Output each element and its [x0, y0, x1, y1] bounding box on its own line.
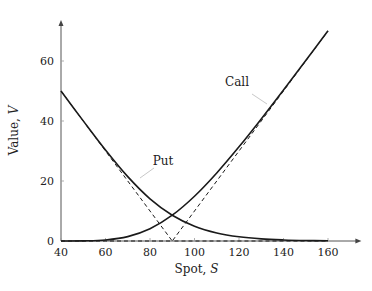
axes [59, 20, 362, 244]
x-tick-label: 160 [318, 246, 339, 259]
series-group [61, 31, 328, 241]
x-tick-label: 80 [143, 246, 157, 259]
y-tick-label: 20 [40, 175, 54, 188]
y-axis-label: Value, V [7, 104, 21, 156]
y-axis-label-var: V [7, 104, 21, 114]
call-label-pointer [252, 94, 267, 104]
option-value-chart: 406080100120140160 0204060 Call Put Spot… [0, 0, 372, 291]
call-payoff-line [61, 31, 328, 241]
x-tick-label: 120 [229, 246, 250, 259]
x-tick-label: 60 [99, 246, 113, 259]
annotations: Call Put [140, 75, 267, 178]
call-series-label: Call [225, 75, 249, 89]
x-tick-label: 40 [54, 246, 68, 259]
y-axis-arrow-icon [59, 20, 64, 26]
put-label-pointer [140, 168, 154, 178]
x-axis-label-text: Spot, [175, 262, 211, 276]
y-axis-label-text: Value, [7, 114, 21, 156]
y-ticks: 0204060 [40, 55, 64, 248]
put-curve [61, 91, 328, 241]
y-tick-label: 40 [40, 115, 54, 128]
put-series-label: Put [153, 154, 174, 168]
put-payoff-line [61, 91, 328, 241]
call-curve [61, 31, 328, 241]
y-tick-label: 60 [40, 55, 54, 68]
y-tick-label: 0 [47, 235, 54, 248]
x-tick-label: 100 [184, 246, 205, 259]
x-axis-label: Spot, S [175, 262, 219, 276]
x-axis-label-var: S [210, 262, 218, 276]
x-axis-arrow-icon [355, 239, 361, 244]
x-tick-label: 140 [273, 246, 294, 259]
